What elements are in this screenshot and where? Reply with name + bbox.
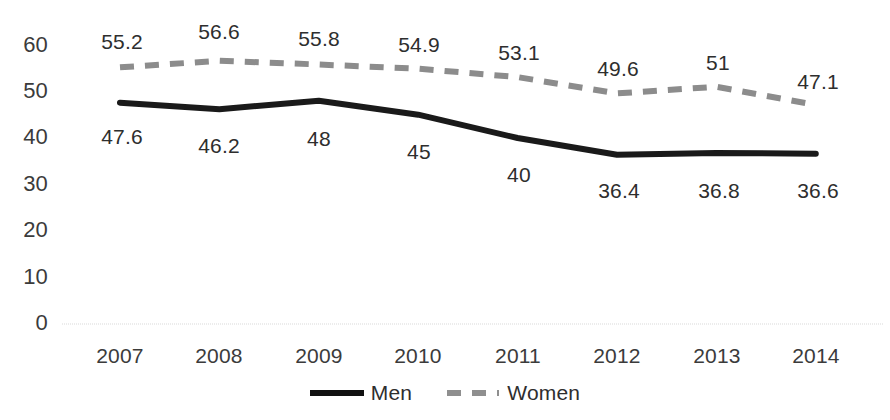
data-label-women-2012: 49.6	[578, 58, 658, 79]
x-tick-label-2010: 2010	[373, 345, 463, 366]
legend-entry-women[interactable]: Women	[446, 382, 580, 403]
x-tick-label-2009: 2009	[274, 345, 364, 366]
data-label-men-2013: 36.8	[679, 180, 759, 201]
data-label-men-2012: 36.4	[579, 180, 659, 201]
legend-entry-men[interactable]: Men	[310, 382, 412, 403]
data-label-women-2007: 55.2	[82, 31, 162, 52]
data-label-women-2009: 55.8	[279, 28, 359, 49]
legend-swatch-women-dashed-line-icon	[446, 386, 500, 400]
data-label-men-2011: 40	[479, 164, 559, 185]
legend-label-women: Women	[507, 382, 580, 403]
data-label-men-2008: 46.2	[179, 135, 259, 156]
data-label-men-2009: 48	[279, 128, 359, 149]
x-tick-label-2013: 2013	[672, 345, 762, 366]
legend-label-men: Men	[371, 382, 412, 403]
x-tick-label-2011: 2011	[473, 345, 563, 366]
data-label-women-2013: 51	[678, 52, 758, 73]
line-chart: 60 50 40 30 20 10 0 55.2 56.6 55.8 54.9 …	[0, 0, 890, 420]
data-label-men-2014: 36.6	[778, 180, 858, 201]
data-label-women-2014: 47.1	[778, 71, 858, 92]
data-label-women-2008: 56.6	[179, 21, 259, 42]
x-tick-label-2012: 2012	[572, 345, 662, 366]
x-tick-label-2014: 2014	[771, 345, 861, 366]
legend-swatch-men-solid-line-icon	[310, 386, 364, 400]
data-label-men-2010: 45	[379, 141, 459, 162]
data-label-men-2007: 47.6	[82, 126, 162, 147]
x-tick-label-2008: 2008	[174, 345, 264, 366]
data-label-women-2010: 54.9	[379, 34, 459, 55]
chart-legend: Men Women	[0, 382, 890, 403]
data-label-women-2011: 53.1	[479, 42, 559, 63]
x-tick-label-2007: 2007	[75, 345, 165, 366]
